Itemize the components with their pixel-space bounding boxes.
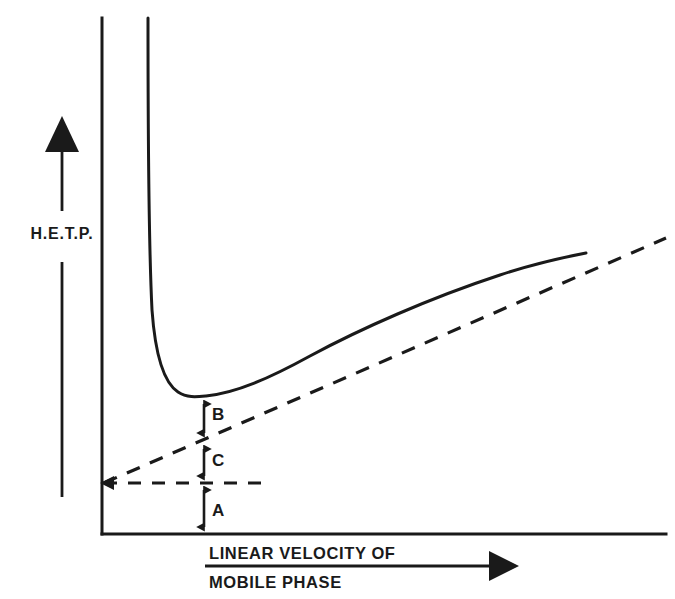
segment-label-c: C [212, 451, 225, 470]
segment-label-b: B [212, 405, 225, 424]
van-deemter-figure: H.E.T.P. B C A LINEAR VELOCITY OF MOBI [0, 0, 675, 599]
x-arrow-head-icon [489, 551, 519, 581]
c-term-asymptote-dashed [104, 238, 666, 483]
y-axis-direction-arrow [45, 116, 79, 497]
plot-canvas: H.E.T.P. B C A LINEAR VELOCITY OF MOBI [0, 0, 675, 599]
x-axis-label-block: LINEAR VELOCITY OF MOBILE PHASE [205, 544, 519, 591]
x-axis-label-line1: LINEAR VELOCITY OF [209, 544, 396, 562]
x-axis-label-line2: MOBILE PHASE [209, 573, 342, 591]
van-deemter-curve [148, 18, 586, 397]
y-axis-label: H.E.T.P. [30, 225, 93, 242]
segment-label-a: A [212, 501, 225, 520]
chart-axes [102, 18, 666, 534]
y-arrow-head-icon [45, 116, 79, 152]
